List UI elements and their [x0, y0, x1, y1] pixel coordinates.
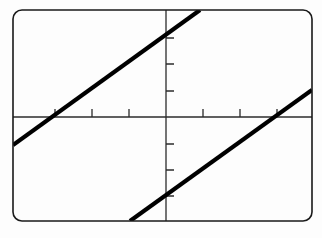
graph-canvas: [0, 0, 322, 238]
calculator-graph-screen: [0, 0, 322, 238]
